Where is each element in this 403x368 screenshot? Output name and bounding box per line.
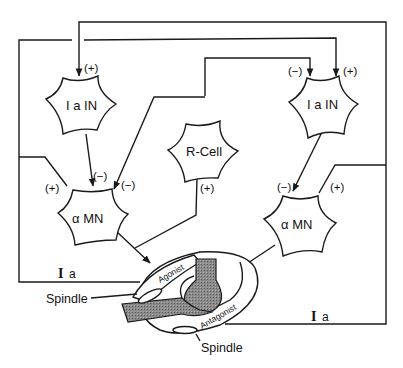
spindle-label-bottom: Spindle [201, 341, 243, 355]
wire-rcell-to-right-ia-in [205, 58, 310, 96]
cell-ia-in-right: I a IN [289, 76, 358, 138]
spindle-antagonist [173, 327, 197, 334]
spindle-callout-top [91, 294, 137, 298]
svg-text:I: I [58, 266, 63, 281]
svg-text:a: a [322, 310, 329, 324]
spindle-callout-bottom [196, 334, 200, 341]
muscle-joint: Agonist Antagonist [122, 252, 258, 334]
cell-alpha-mn-left: α MN [58, 189, 128, 245]
sign-alpha-mn-right-inhib: (−) [277, 181, 292, 193]
cell-alpha-mn-right: α MN [264, 196, 336, 256]
afferent-label-left: I a [58, 266, 76, 281]
cell-label-ia-in-right: I a IN [307, 97, 338, 112]
sign-alpha-mn-left-inhib-rcell: (−) [121, 179, 136, 191]
afferent-label-right: I a [311, 309, 329, 324]
cell-r-cell: R-Cell [168, 121, 238, 182]
cell-label-ia-in-left: I a IN [66, 98, 97, 113]
sign-alpha-mn-right-excit: (+) [330, 181, 345, 193]
wire-right-ia-afferent [225, 312, 386, 324]
sign-rcell-excit: (+) [200, 182, 215, 194]
cell-label-alpha-mn-right: α MN [281, 217, 312, 232]
sign-alpha-mn-left-excit: (+) [45, 182, 60, 194]
svg-text:I: I [311, 309, 316, 324]
wire-left-alpha-mn-to-rcell [135, 178, 197, 248]
sign-ia-in-right-excit: (+) [343, 65, 358, 77]
sign-ia-in-left-excit: (+) [84, 62, 99, 74]
wire-left-alpha-mn-to-agonist [116, 231, 150, 263]
sign-ia-in-right-inhib: (−) [288, 65, 303, 77]
cell-ia-in-left: I a IN [46, 76, 116, 134]
sign-alpha-mn-left-inhib-ia: (−) [93, 170, 108, 182]
cell-label-alpha-mn-left: α MN [72, 211, 103, 226]
wire-left-ia-in-to-left-alpha-mn [86, 134, 93, 186]
diagram-canvas: I a IN R-Cell I a IN α MN α MN (+) (−) (… [0, 0, 403, 368]
reflex-circuit-diagram: I a IN R-Cell I a IN α MN α MN (+) (−) (… [0, 0, 403, 368]
cell-label-r-cell: R-Cell [186, 144, 222, 159]
spindle-label-top: Spindle [46, 292, 88, 306]
wire-right-ia-in-to-right-alpha-mn [293, 132, 322, 191]
svg-text:a: a [69, 267, 76, 281]
wire-left-ia-to-left-alpha-mn [19, 157, 67, 186]
